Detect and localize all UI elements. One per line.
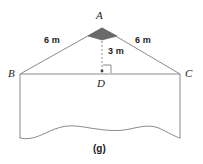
measure-label-ac: 6 m [135, 36, 151, 45]
vertex-label-b: B [8, 68, 15, 79]
shaded-angle-marker [88, 28, 117, 40]
figure-caption: (g) [93, 144, 106, 154]
wall-wavy-bottom-edge [20, 126, 180, 139]
right-angle-dot [101, 70, 104, 73]
vertex-label-c: C [185, 68, 192, 79]
figure-container: A B C D 6 m 6 m 3 m (g) [0, 0, 203, 164]
measure-label-ab: 6 m [44, 36, 60, 45]
measure-label-ad: 3 m [108, 47, 124, 56]
vertex-label-a: A [96, 10, 103, 21]
vertex-label-d: D [97, 78, 105, 89]
right-angle-marker [103, 65, 111, 73]
